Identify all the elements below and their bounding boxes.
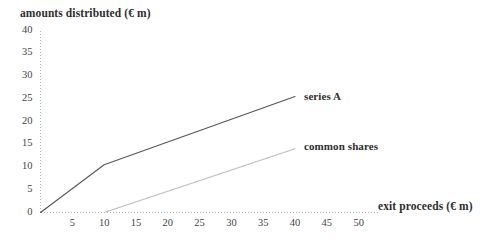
y-tick-label: 10 [11, 160, 33, 171]
series-label-common-shares: common shares [304, 140, 378, 152]
y-tick-label: 5 [11, 183, 33, 194]
x-tick-label: 40 [284, 217, 306, 228]
y-tick-label: 35 [11, 46, 33, 57]
y-tick-label: 40 [11, 24, 33, 35]
y-axis-title: amounts distributed (€ m) [20, 7, 151, 19]
x-tick-label: 35 [252, 217, 274, 228]
axis-lines [41, 31, 381, 213]
x-tick-label: 45 [316, 217, 338, 228]
x-tick-label: 50 [348, 217, 370, 228]
y-tick-label: 0 [11, 206, 33, 217]
x-tick-label: 30 [220, 217, 242, 228]
y-tick-label: 20 [11, 115, 33, 126]
y-tick-label: 15 [11, 137, 33, 148]
y-tick-label: 30 [11, 69, 33, 80]
x-tick-label: 5 [61, 217, 83, 228]
y-tick-label: 25 [11, 92, 33, 103]
x-tick-label: 10 [93, 217, 115, 228]
x-tick-label: 20 [157, 217, 179, 228]
x-axis-title: exit proceeds (€ m) [378, 200, 473, 212]
chart-container: amounts distributed (€ m) exit proceeds … [0, 0, 486, 242]
series-lines [41, 96, 296, 212]
series-label-series-a: series A [304, 90, 341, 102]
x-tick-label: 25 [189, 217, 211, 228]
series-line-common-shares [104, 149, 295, 213]
x-tick-label: 15 [125, 217, 147, 228]
series-line-series-a [41, 96, 296, 212]
